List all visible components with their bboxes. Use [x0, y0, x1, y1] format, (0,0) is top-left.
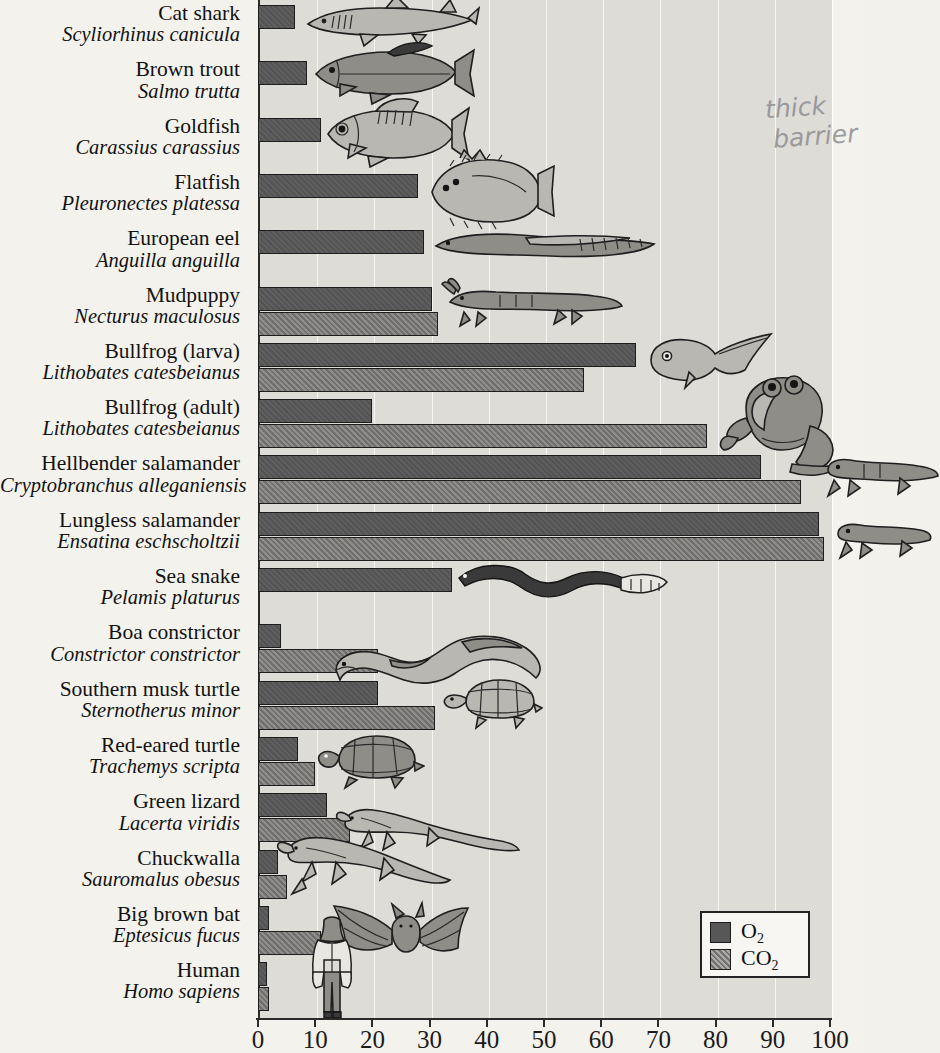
- animal-illustration-frog: [718, 368, 846, 480]
- x-axis-tick-label: 90: [760, 1026, 785, 1053]
- x-axis-tick-label: 80: [703, 1026, 728, 1053]
- x-axis-tick-label: 70: [646, 1026, 671, 1053]
- animal-illustration-bat: [330, 900, 470, 980]
- animal-illustration-ensatina: [828, 512, 933, 564]
- animal-illustration-layer: [0, 0, 863, 1018]
- x-axis-tick-label: 100: [811, 1026, 849, 1053]
- animal-illustration-human: [302, 916, 362, 1021]
- x-axis-tick-label: 60: [589, 1026, 614, 1053]
- legend: O2 CO2: [700, 911, 810, 978]
- animal-illustration-trout: [310, 40, 475, 106]
- animal-illustration-lizard: [335, 798, 520, 870]
- animal-illustration-goldfish: [320, 96, 470, 168]
- legend-label-o2: O2: [741, 918, 764, 947]
- animal-illustration-boa: [330, 616, 545, 696]
- x-axis-tick-label: 20: [360, 1026, 385, 1053]
- animal-illustration-seasnake: [455, 556, 670, 614]
- animal-illustration-eel: [430, 222, 660, 270]
- legend-item-co2: CO2: [710, 946, 800, 973]
- legend-swatch-o2: [710, 922, 731, 943]
- animal-illustration-flatfish: [420, 148, 555, 230]
- x-axis-tick-label: 10: [303, 1026, 328, 1053]
- animal-illustration-tadpole: [645, 330, 775, 392]
- x-axis-tick-label: 40: [474, 1026, 499, 1053]
- animal-illustration-shark: [300, 0, 480, 50]
- x-axis-tick-label: 30: [417, 1026, 442, 1053]
- animal-illustration-redturtle: [315, 728, 425, 790]
- x-axis-tick-label: 50: [532, 1026, 557, 1053]
- legend-item-o2: O2: [710, 919, 800, 946]
- x-axis-tick-label: 0: [252, 1026, 265, 1053]
- animal-illustration-mudpuppy: [440, 276, 625, 330]
- legend-label-co2: CO2: [741, 945, 779, 974]
- animal-illustration-hellbender: [820, 448, 940, 506]
- animal-illustration-chuckwalla: [276, 824, 456, 906]
- animal-illustration-muskturtle: [438, 672, 543, 730]
- legend-swatch-co2: [710, 949, 731, 970]
